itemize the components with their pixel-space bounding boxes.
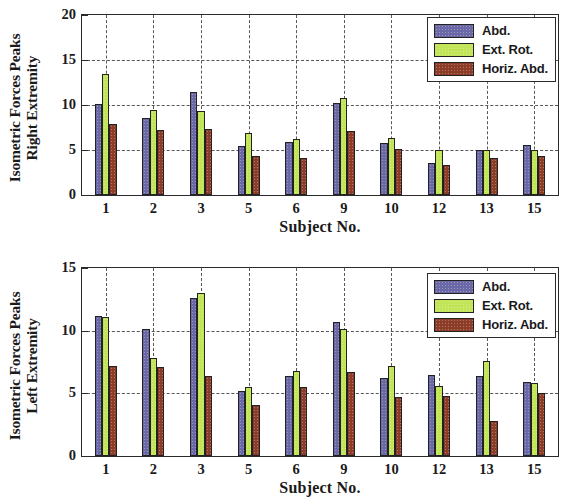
x-tick-label: 6: [293, 200, 300, 217]
legend-swatch-horiz-abd: [434, 318, 474, 332]
y-tick-label: 10: [62, 322, 77, 339]
bar: [483, 361, 490, 456]
bar: [109, 124, 116, 195]
y-tick-label: 5: [69, 141, 76, 158]
bar: [300, 387, 307, 456]
bar: [102, 74, 109, 195]
legend-label: Abd.: [482, 279, 510, 294]
bar: [435, 150, 442, 195]
bar: [157, 130, 164, 195]
y-axis-title-left-extremity: Isometric Forces Peaks Left Extremity: [0, 266, 46, 466]
bar: [109, 366, 116, 456]
legend-item: Abd.: [434, 278, 548, 295]
x-tick-label: 1: [102, 461, 109, 478]
bar: [523, 382, 530, 456]
y-tick-mark: [82, 105, 88, 106]
x-tick-label: 9: [340, 461, 347, 478]
bar: [538, 393, 545, 456]
bar: [285, 376, 292, 456]
bar: [490, 421, 497, 456]
bar: [395, 397, 402, 456]
y-tick-mark: [82, 150, 88, 151]
bar: [538, 156, 545, 195]
x-tick-label: 5: [245, 200, 252, 217]
bar: [340, 98, 347, 195]
bar: [388, 138, 395, 195]
bar: [205, 129, 212, 195]
y-tick-mark: [82, 60, 88, 61]
chart-panel-right-extremity: Isometric Forces Peaks Right Extremity 0…: [0, 0, 579, 250]
y-tick-label: 15: [62, 51, 77, 68]
y-tick-mark: [82, 393, 88, 394]
bar: [380, 378, 387, 456]
bar: [157, 367, 164, 456]
y-tick-mark: [82, 331, 88, 332]
legend-item: Ext. Rot.: [434, 297, 548, 314]
y-tick-label: 20: [62, 6, 77, 23]
bar: [245, 387, 252, 456]
bar: [197, 111, 204, 195]
y-axis-title-line2: Right Extremity: [23, 56, 40, 161]
bar: [395, 149, 402, 195]
x-tick-label: 5: [245, 461, 252, 478]
y-tick-label: 0: [69, 186, 76, 203]
figure-isometric-forces-peaks: Isometric Forces Peaks Right Extremity 0…: [0, 0, 579, 503]
bar: [476, 376, 483, 456]
legend-item: Abd.: [434, 22, 548, 39]
bar: [531, 150, 538, 195]
y-axis-title-line2: Left Extremity: [23, 318, 40, 413]
bar: [190, 298, 197, 456]
bar: [197, 293, 204, 456]
bar: [150, 110, 157, 196]
x-tick-label: 12: [432, 461, 447, 478]
x-tick-label: 15: [527, 200, 542, 217]
bar: [333, 322, 340, 456]
plot-area-right-extremity: 0510152012356910121315Abd.Ext. Rot.Horiz…: [81, 14, 559, 196]
bar: [333, 103, 340, 195]
bar: [238, 146, 245, 196]
bar: [388, 366, 395, 456]
y-tick-label: 15: [62, 259, 77, 276]
legend: Abd.Ext. Rot.Horiz. Abd.: [427, 17, 556, 82]
bar: [443, 165, 450, 195]
bar: [285, 142, 292, 195]
y-tick-mark: [82, 195, 88, 196]
bar: [523, 145, 530, 195]
x-tick-label: 3: [197, 461, 204, 478]
bar: [483, 150, 490, 195]
bar: [300, 158, 307, 195]
bar: [252, 405, 259, 456]
chart-panel-left-extremity: Isometric Forces Peaks Left Extremity 05…: [0, 250, 579, 503]
y-tick-label: 0: [69, 447, 76, 464]
y-axis-title-line1: Isometric Forces Peaks: [6, 292, 23, 441]
legend-item: Horiz. Abd.: [434, 60, 548, 77]
bar: [380, 143, 387, 195]
x-axis-title-top: Subject No.: [81, 218, 559, 236]
legend-swatch-ext-rot: [434, 43, 474, 57]
bar: [190, 92, 197, 195]
x-tick-label: 1: [102, 200, 109, 217]
x-axis-title-bottom: Subject No.: [81, 479, 559, 497]
bar: [490, 158, 497, 195]
x-tick-label: 10: [384, 461, 399, 478]
y-axis-title-right-extremity: Isometric Forces Peaks Right Extremity: [0, 8, 46, 208]
bar: [531, 383, 538, 456]
legend-item: Ext. Rot.: [434, 41, 548, 58]
x-tick-label: 10: [384, 200, 399, 217]
bar: [435, 386, 442, 456]
legend-swatch-horiz-abd: [434, 62, 474, 76]
bar: [340, 329, 347, 456]
bar: [347, 372, 354, 456]
bar: [142, 118, 149, 195]
legend-item: Horiz. Abd.: [434, 316, 548, 333]
bar: [102, 317, 109, 456]
x-tick-label: 15: [527, 461, 542, 478]
bar: [293, 139, 300, 195]
bar: [95, 104, 102, 195]
y-tick-label: 10: [62, 96, 77, 113]
y-tick-mark: [82, 456, 88, 457]
bar: [347, 131, 354, 195]
legend-swatch-abd: [434, 280, 474, 294]
y-tick-mark: [82, 268, 88, 269]
bar: [245, 133, 252, 195]
